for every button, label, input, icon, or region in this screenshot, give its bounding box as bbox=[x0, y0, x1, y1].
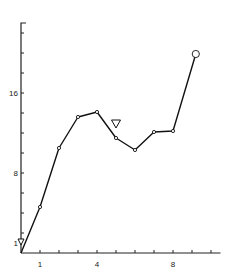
ticks bbox=[21, 33, 211, 253]
y-axis bbox=[21, 23, 26, 253]
tick-labels: 1481816 bbox=[9, 89, 176, 269]
data-point bbox=[95, 110, 98, 113]
x-tick-label: 8 bbox=[171, 260, 176, 269]
series-line bbox=[21, 54, 196, 253]
data-point bbox=[38, 205, 41, 208]
triangle-marker-icon bbox=[18, 239, 24, 245]
data-point bbox=[133, 148, 136, 151]
y-tick-label: 8 bbox=[14, 169, 19, 178]
annotations bbox=[18, 120, 121, 245]
x-tick-label: 1 bbox=[38, 260, 43, 269]
axes bbox=[21, 23, 221, 253]
data-point bbox=[171, 129, 174, 132]
triangle-marker-icon bbox=[112, 120, 121, 128]
data-point bbox=[114, 136, 117, 139]
x-tick-label: 4 bbox=[95, 260, 100, 269]
data-point bbox=[57, 146, 60, 149]
y-tick-label: 16 bbox=[9, 89, 18, 98]
data-point bbox=[76, 115, 79, 118]
end-point-marker bbox=[192, 50, 199, 57]
data-point bbox=[152, 130, 155, 133]
data-series bbox=[21, 50, 199, 253]
line-chart: 1481816 bbox=[0, 0, 233, 277]
y-tick-label: 1 bbox=[14, 239, 19, 248]
